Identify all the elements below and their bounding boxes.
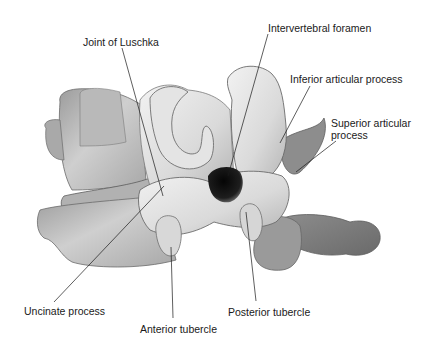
label-intervertebral-foramen: Intervertebral foramen xyxy=(268,22,371,34)
label-inferior-articular-process: Inferior articular process xyxy=(290,73,403,85)
label-joint-of-luschka: Joint of Luschka xyxy=(83,36,159,48)
posterior-tubercle-shape xyxy=(240,204,262,241)
label-superior-articular-process: Superior articular process xyxy=(331,117,411,141)
vertebra-illustration xyxy=(0,0,431,346)
label-posterior-tubercle: Posterior tubercle xyxy=(228,306,310,318)
label-anterior-tubercle: Anterior tubercle xyxy=(140,323,217,335)
label-uncinate-process: Uncinate process xyxy=(24,305,105,317)
